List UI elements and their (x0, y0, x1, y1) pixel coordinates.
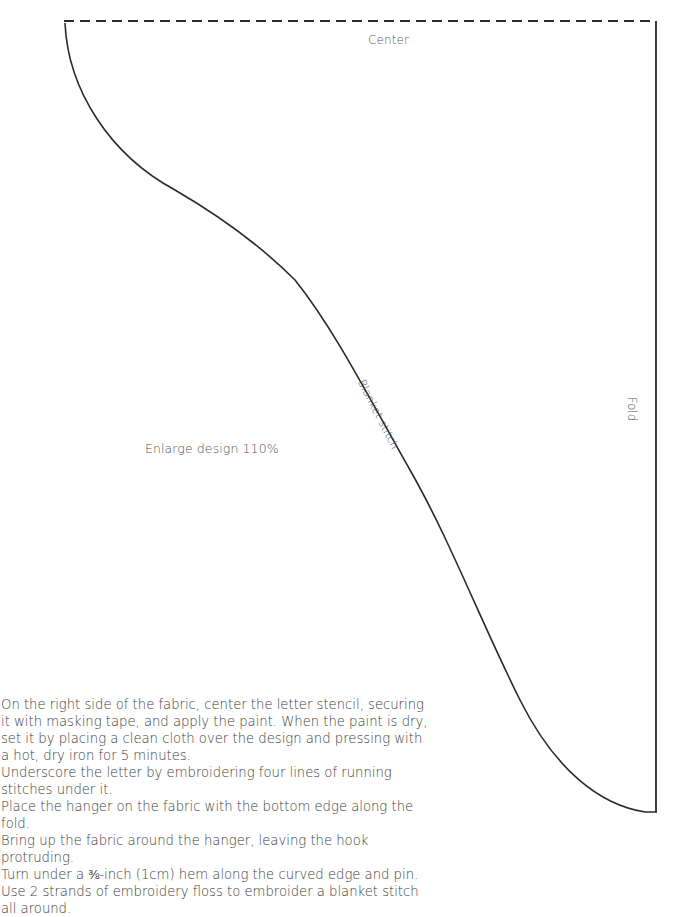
instruction-paragraph: Bring up the fabric around the hanger, l… (1, 832, 431, 866)
instruction-paragraph: Underscore the letter by embroidering fo… (1, 764, 431, 798)
fold-label: Fold (625, 397, 639, 421)
instruction-paragraph: Place the hanger on the fabric with the … (1, 798, 431, 832)
curved-edge (65, 23, 657, 812)
instruction-paragraph: On the right side of the fabric, center … (1, 696, 431, 764)
enlarge-note: Enlarge design 110% (145, 441, 279, 456)
instruction-paragraph: Use 2 strands of embroidery floss to emb… (1, 883, 431, 917)
instructions-block: On the right side of the fabric, center … (1, 696, 431, 917)
instruction-paragraph: Turn under a ⅜-inch (1cm) hem along the … (1, 866, 431, 883)
center-label: Center (368, 33, 409, 47)
